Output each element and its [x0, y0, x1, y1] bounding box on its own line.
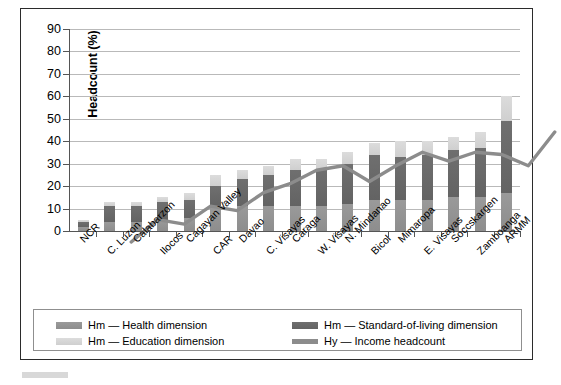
plot-area: 0102030405060708090	[69, 29, 520, 232]
bar-segment-standard-of-living	[501, 121, 512, 193]
legend-swatch-standard-of-living-icon	[292, 322, 318, 329]
y-axis-tick-label: 20	[31, 180, 61, 193]
bar-segment-education	[342, 152, 353, 163]
bar-segment-education	[422, 141, 433, 154]
x-axis-label: Ilocos	[158, 230, 185, 257]
bar-segment-standard-of-living	[184, 200, 195, 218]
bar-segment-standard-of-living	[342, 164, 353, 204]
bar-stack	[104, 202, 115, 231]
bar-segment-education	[475, 132, 486, 148]
gridline	[70, 51, 520, 52]
bar-segment-standard-of-living	[104, 206, 115, 222]
y-axis-tick	[63, 164, 70, 165]
bar-segment-education	[290, 159, 301, 170]
x-axis-labels: NCRC. LuzonCalabarzonIlocosCagayan Valle…	[69, 235, 519, 319]
legend-label-education: Hm — Education dimension	[88, 335, 224, 347]
bar-segment-education	[263, 166, 274, 175]
y-axis-tick-label: 10	[31, 202, 61, 215]
bar-segment-education	[501, 96, 512, 121]
gridline	[70, 29, 520, 30]
y-axis-tick	[63, 51, 70, 52]
legend-label-income: Hy — Income headcount	[324, 335, 445, 347]
page-edge-artifact	[22, 372, 68, 378]
bar-segment-standard-of-living	[316, 170, 327, 206]
y-axis-tick-label: 30	[31, 157, 61, 170]
legend-label-health: Hm — Health dimension	[88, 319, 207, 331]
bar-segment-education	[395, 141, 406, 157]
chart-legend: Hm — Health dimension Hm — Education dim…	[33, 309, 522, 351]
bar-segment-health	[104, 222, 115, 231]
bar-segment-education	[369, 143, 380, 154]
y-axis-tick	[63, 74, 70, 75]
bar-segment-health	[263, 206, 274, 231]
bar-segment-education	[448, 137, 459, 150]
bar-segment-standard-of-living	[422, 155, 433, 200]
y-axis-tick	[63, 96, 70, 97]
y-axis-tick	[63, 186, 70, 187]
y-axis-tick-label: 0	[31, 225, 61, 238]
legend-swatch-income-line-icon	[292, 339, 318, 344]
gridline	[70, 74, 520, 75]
bar-segment-standard-of-living	[263, 175, 274, 206]
bar-stack	[395, 141, 406, 231]
gridline	[70, 119, 520, 120]
legend-item-education: Hm — Education dimension	[56, 334, 224, 347]
bar-segment-education	[210, 175, 221, 186]
bar-segment-education	[316, 159, 327, 170]
bar-segment-standard-of-living	[448, 150, 459, 197]
y-axis-tick-label: 80	[31, 45, 61, 58]
y-axis-tick-label: 70	[31, 68, 61, 81]
bar-segment-standard-of-living	[475, 148, 486, 197]
y-axis-tick	[63, 141, 70, 142]
y-axis-tick-label: 60	[31, 90, 61, 103]
bar-segment-education	[237, 170, 248, 179]
figure-frame: Headcount (%) 0102030405060708090 NCRC. …	[20, 8, 533, 360]
gridline	[70, 96, 520, 97]
y-axis-tick	[63, 231, 70, 232]
y-axis-tick	[63, 29, 70, 30]
y-axis-tick	[63, 209, 70, 210]
legend-swatch-health-icon	[56, 322, 82, 329]
y-axis-tick	[63, 119, 70, 120]
y-axis-tick-label: 90	[31, 23, 61, 36]
legend-item-income: Hy — Income headcount	[292, 334, 445, 347]
y-axis-tick-label: 50	[31, 113, 61, 126]
y-axis-tick-label: 40	[31, 135, 61, 148]
x-axis-label: CAR	[211, 233, 234, 256]
legend-label-standard-of-living: Hm — Standard-of-living dimension	[324, 319, 498, 331]
bar-segment-standard-of-living	[395, 157, 406, 200]
legend-item-health: Hm — Health dimension	[56, 318, 207, 331]
bar-stack	[237, 170, 248, 231]
bar-segment-standard-of-living	[369, 155, 380, 200]
legend-item-standard-of-living: Hm — Standard-of-living dimension	[292, 318, 498, 331]
x-axis-label: Bicol	[369, 233, 393, 257]
bar-segment-standard-of-living	[290, 170, 301, 206]
legend-swatch-education-icon	[56, 338, 82, 345]
bar-segment-education	[184, 193, 195, 200]
